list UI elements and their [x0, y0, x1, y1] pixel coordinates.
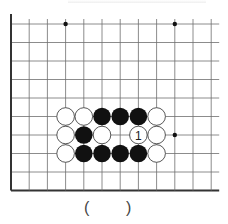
white-stone: [148, 126, 166, 144]
black-stone: [75, 126, 93, 144]
white-stone: [93, 126, 111, 144]
star-point-icon: [173, 133, 177, 137]
star-point-icon: [173, 22, 177, 26]
answer-close-paren: ): [126, 199, 131, 217]
move-number-label: 1: [135, 129, 142, 143]
white-stone: [148, 108, 166, 126]
star-point-icon: [63, 22, 67, 26]
white-stone: [148, 145, 166, 163]
white-stone: [57, 126, 75, 144]
go-problem-diagram: 1 ( ): [0, 0, 228, 224]
black-stone: [111, 108, 129, 126]
white-stone: [57, 108, 75, 126]
black-stone: [111, 145, 129, 163]
black-stone: [130, 145, 148, 163]
white-stone: [57, 145, 75, 163]
answer-open-paren: (: [84, 199, 89, 217]
black-stone: [130, 108, 148, 126]
stones-layer: 1: [57, 108, 166, 163]
black-stone: [93, 145, 111, 163]
white-stone: [75, 108, 93, 126]
board-grid: [11, 14, 219, 191]
black-stone: [93, 108, 111, 126]
black-stone: [75, 145, 93, 163]
white-stone: 1: [130, 126, 148, 144]
go-board: 1: [0, 0, 228, 224]
